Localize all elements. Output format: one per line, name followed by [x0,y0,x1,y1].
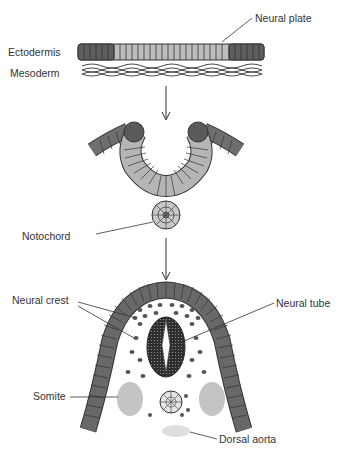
ectodermis-layer [78,44,264,60]
neural-crest-label: Neural crest [12,294,69,306]
dorsal-aorta-leader-line [190,432,217,439]
neural-tube-label: Neural tube [276,297,330,309]
ectodermis-label: Ectodermis [8,46,61,58]
neural-plate-label: Neural plate [255,12,312,24]
arrow-down-icon [162,86,170,120]
somite-right [199,382,225,416]
notochord-label: Notochord [22,230,71,242]
somite-label: Somite [33,390,66,402]
notochord-leader-line [96,222,153,234]
neural-tube-formation-diagram: Neural plate Ectodermis Mesoderm [0,0,338,454]
mesoderm-label: Mesoderm [10,67,60,79]
notochord-stage3 [160,391,182,413]
dorsal-aorta-label: Dorsal aorta [219,433,276,445]
somite-left [117,382,143,416]
neural-plate-leader-line [222,18,252,42]
mesoderm-layer [82,64,262,76]
arrow-down-icon [162,238,170,280]
notochord-stage2 [152,201,180,229]
neural-groove [92,122,240,197]
dorsal-aorta [162,425,190,437]
neural-tube [147,317,185,377]
